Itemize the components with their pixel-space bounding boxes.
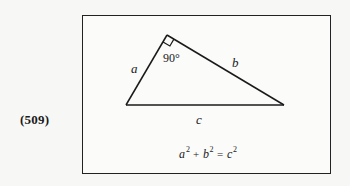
equation-exponent-c: 2: [233, 145, 237, 154]
equation-equals: =: [217, 148, 223, 160]
equation-plus: +: [193, 148, 199, 160]
pythagorean-diagram: 90° a b c a 2 + b 2 = c 2: [0, 0, 350, 186]
equation-exponent-b: 2: [210, 145, 214, 154]
pythagorean-equation: a 2 + b 2 = c 2: [179, 145, 237, 161]
side-b-line: [167, 35, 284, 105]
side-c-label: c: [196, 112, 202, 127]
right-angle-label: 90°: [163, 51, 180, 65]
equation-exponent-a: 2: [186, 145, 190, 154]
side-a-label: a: [131, 61, 138, 76]
side-b-label: b: [232, 55, 239, 70]
equation-term-a: a: [179, 147, 185, 161]
equation-term-b: b: [203, 147, 209, 161]
